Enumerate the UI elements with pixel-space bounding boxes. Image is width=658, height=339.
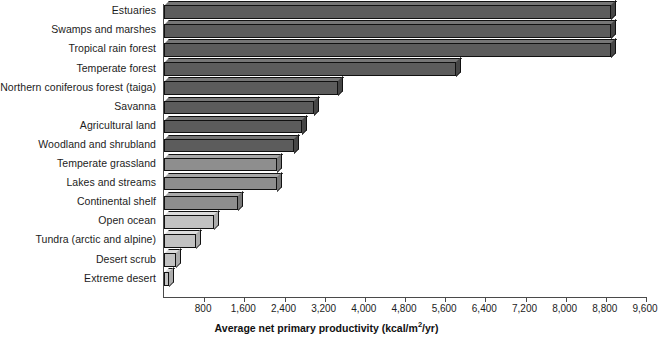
bar [164,253,176,267]
bar-side-face [169,267,174,287]
x-axis-tick-label: 2,400 [271,303,296,314]
x-axis-tick [204,297,205,302]
bar [164,215,214,229]
bar [164,177,277,191]
bar [164,81,338,95]
bar-front-face [164,5,611,19]
x-axis-tick [325,297,326,302]
bar-front-face [164,234,196,248]
bar-side-face [176,248,181,268]
bar-side-face [611,38,616,58]
bar-side-face [214,210,219,230]
bar-front-face [164,43,611,57]
bar-side-face [196,229,201,249]
category-label: Northern coniferous forest (taiga) [0,82,156,93]
x-axis-tick-label: 9,600 [632,303,657,314]
x-axis-tick [646,297,647,302]
x-axis-tick-label: 8,000 [552,303,577,314]
bar [164,158,277,172]
category-label: Temperate grassland [57,158,156,169]
x-axis-tick-label: 1,600 [231,303,256,314]
x-axis-tick [606,297,607,302]
x-axis-tick-label: 6,400 [472,303,497,314]
category-label: Estuaries [112,5,156,16]
bar-front-face [164,24,611,38]
bar-front-face [164,158,277,172]
category-label: Agricultural land [80,120,156,131]
bar-side-face [277,153,282,173]
bar [164,196,238,210]
x-axis-tick-label: 4,800 [391,303,416,314]
bar-side-face [611,0,616,20]
category-label: Savanna [114,101,156,112]
bar-front-face [164,120,302,134]
category-label: Temperate forest [76,63,156,74]
x-axis-tick [566,297,567,302]
bar-front-face [164,196,238,210]
bar [164,234,196,248]
bar [164,101,314,115]
category-axis-labels: EstuariesSwamps and marshesTropical rain… [0,0,160,292]
category-label: Extreme desert [84,273,156,284]
x-axis-tick [445,297,446,302]
bar [164,5,611,19]
bar-front-face [164,101,314,115]
x-axis-tick [526,297,527,302]
category-label: Desert scrub [96,254,156,265]
x-axis-tick [405,297,406,302]
plot-area [163,4,646,298]
x-axis-tick-label: 7,200 [512,303,537,314]
bar [164,62,456,76]
x-axis-tick [485,297,486,302]
x-axis-tick-label: 4,000 [351,303,376,314]
bar [164,272,169,286]
bar-front-face [164,62,456,76]
bar-side-face [456,57,461,77]
bar-side-face [611,19,616,39]
category-label: Lakes and streams [66,177,156,188]
bar-front-face [164,177,277,191]
category-label: Tundra (arctic and alpine) [35,234,156,245]
bar [164,139,294,153]
bar-front-face [164,253,176,267]
bar [164,43,611,57]
category-label: Open ocean [98,215,156,226]
bar [164,24,611,38]
x-axis-tick-label: 3,200 [311,303,336,314]
bar-side-face [338,76,343,96]
x-axis-title: Average net primary productivity (kcal/m… [0,320,653,334]
bar [164,120,302,134]
x-axis-tick [244,297,245,302]
x-axis-tick-label: 8,800 [592,303,617,314]
x-axis-tick [365,297,366,302]
category-label: Swamps and marshes [51,24,156,35]
bar-side-face [277,172,282,192]
bar-front-face [164,215,214,229]
x-axis-tick [285,297,286,302]
bar-side-face [238,191,243,211]
category-label: Continental shelf [77,196,156,207]
bar-front-face [164,139,294,153]
category-label: Woodland and shrubland [38,139,156,150]
x-axis-tick-label: 5,600 [432,303,457,314]
category-label: Tropical rain forest [68,43,156,54]
x-axis-tick-label: 800 [195,303,212,314]
bar-front-face [164,272,169,286]
bar-front-face [164,81,338,95]
